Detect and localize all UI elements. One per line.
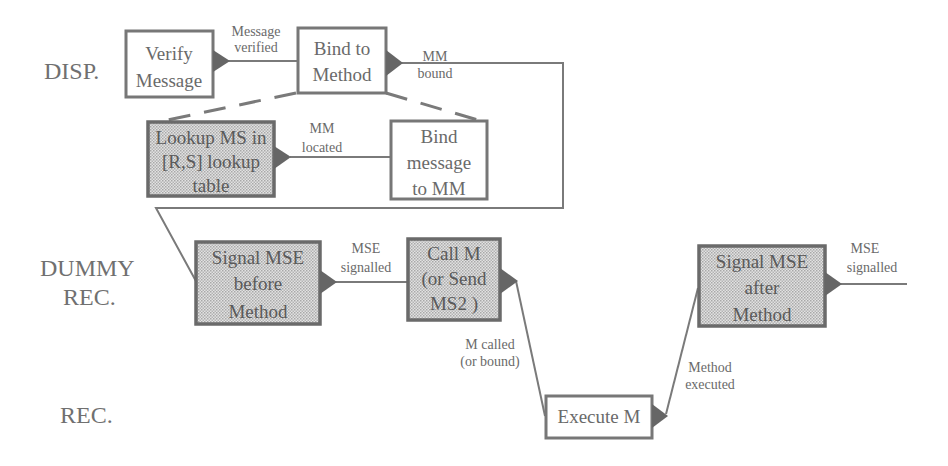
node-label: Bind xyxy=(421,126,458,147)
process-diagram: DISP. DUMMY REC. REC. Verify Message Bin… xyxy=(0,0,948,466)
edge-label: M called xyxy=(465,337,514,352)
port-signal-before xyxy=(320,270,337,294)
lane-label-rec: REC. xyxy=(60,402,113,428)
edge-label: bound xyxy=(418,66,453,81)
port-execute-m xyxy=(652,404,668,428)
node-label: Lookup MS in xyxy=(156,127,267,148)
edge-m-called xyxy=(516,281,545,416)
edge-method-executed xyxy=(666,288,698,414)
node-label: Call M xyxy=(427,243,480,264)
edge-label: signalled xyxy=(847,260,898,275)
node-label: Execute M xyxy=(558,406,641,427)
node-label: message xyxy=(407,152,471,173)
edge-label: verified xyxy=(234,40,278,55)
edge-label: signalled xyxy=(341,260,392,275)
port-verify-message xyxy=(213,50,230,72)
node-label: before xyxy=(234,273,283,294)
node-label: Method xyxy=(732,304,792,325)
node-label: Method xyxy=(228,301,288,322)
node-label: after xyxy=(745,277,780,298)
edge-label: MM xyxy=(423,49,448,64)
node-label: Signal MSE xyxy=(212,247,304,268)
node-label: [R,S] lookup xyxy=(162,151,260,172)
edge-label: MSE xyxy=(851,241,880,256)
node-label: Message xyxy=(136,70,202,91)
port-call-m xyxy=(500,268,518,294)
lane-label-dummy-line2: REC. xyxy=(63,284,116,310)
edge-label: located xyxy=(302,140,342,155)
edge-label: Message xyxy=(232,24,281,39)
edge-label: Method xyxy=(688,360,732,375)
node-label: Method xyxy=(312,64,372,85)
node-label: Signal MSE xyxy=(716,251,808,272)
decomposition-line-right xyxy=(386,93,478,120)
port-lookup-ms xyxy=(274,146,291,169)
edge-label: MSE xyxy=(352,241,381,256)
lane-label-disp: DISP. xyxy=(44,58,99,84)
edge-label: MM xyxy=(310,121,335,136)
node-label: to MM xyxy=(412,178,465,199)
edge-label: executed xyxy=(685,377,735,392)
port-bind-to-method xyxy=(386,50,403,76)
node-label: MS2 ) xyxy=(430,293,478,315)
node-label: table xyxy=(193,175,230,196)
node-label: Bind to xyxy=(314,38,370,59)
edge-label: (or bound) xyxy=(460,354,520,370)
node-label: Verify xyxy=(145,43,193,64)
node-label: (or Send xyxy=(422,268,487,290)
lane-label-dummy-line1: DUMMY xyxy=(40,255,135,281)
port-signal-after xyxy=(825,272,842,296)
